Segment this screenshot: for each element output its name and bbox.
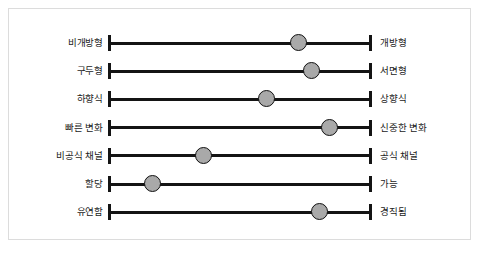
scale-row: 비공식 채널공식 채널 [0, 144, 481, 168]
scale-end-cap-right [369, 120, 372, 136]
scale-row: 하향식상향식 [0, 87, 481, 111]
scale-row: 유연함경직됨 [0, 200, 481, 224]
scale-track-line [108, 70, 372, 73]
scale-end-cap-left [108, 120, 111, 136]
scale-marker[interactable] [144, 175, 161, 192]
scale-left-label: 할당 [8, 172, 103, 196]
scale-end-cap-left [108, 204, 111, 220]
scale-left-label: 유연함 [8, 200, 103, 224]
scale-end-cap-right [369, 91, 372, 107]
scale-end-cap-left [108, 176, 111, 192]
scale-end-cap-left [108, 63, 111, 79]
scale-row: 구두형서면형 [0, 59, 481, 83]
scale-track[interactable] [108, 116, 372, 140]
scale-right-label: 공식 채널 [380, 144, 418, 168]
scale-marker[interactable] [303, 62, 320, 79]
scale-row: 비개방형개방형 [0, 31, 481, 55]
scale-row: 할당가능 [0, 172, 481, 196]
scale-left-label: 빠른 변화 [8, 116, 103, 140]
scale-left-label: 비개방형 [8, 31, 103, 55]
scale-right-label: 개방형 [380, 31, 406, 55]
scale-end-cap-left [108, 35, 111, 51]
scale-right-label: 가능 [380, 172, 398, 196]
scale-marker[interactable] [258, 90, 275, 107]
scale-end-cap-right [369, 63, 372, 79]
scale-track[interactable] [108, 172, 372, 196]
scale-right-label: 경직됨 [380, 200, 406, 224]
scale-track[interactable] [108, 144, 372, 168]
scale-end-cap-right [369, 148, 372, 164]
scale-track[interactable] [108, 200, 372, 224]
semantic-differential-chart: 비개방형개방형구두형서면형하향식상향식빠른 변화신중한 변화비공식 채널공식 채… [0, 0, 481, 258]
scale-marker[interactable] [311, 203, 328, 220]
scale-end-cap-right [369, 204, 372, 220]
scale-left-label: 하향식 [8, 87, 103, 111]
scale-track-line [108, 211, 372, 214]
scale-right-label: 신중한 변화 [380, 116, 427, 140]
scale-rows-container: 비개방형개방형구두형서면형하향식상향식빠른 변화신중한 변화비공식 채널공식 채… [0, 0, 481, 258]
scale-row: 빠른 변화신중한 변화 [0, 116, 481, 140]
scale-right-label: 서면형 [380, 59, 406, 83]
scale-end-cap-left [108, 148, 111, 164]
scale-track-line [108, 154, 372, 157]
scale-left-label: 구두형 [8, 59, 103, 83]
scale-track-line [108, 42, 372, 45]
scale-right-label: 상향식 [380, 87, 406, 111]
scale-track-line [108, 98, 372, 101]
scale-end-cap-right [369, 35, 372, 51]
scale-track[interactable] [108, 31, 372, 55]
scale-marker[interactable] [290, 34, 307, 51]
scale-marker[interactable] [321, 119, 338, 136]
scale-left-label: 비공식 채널 [8, 144, 103, 168]
scale-track[interactable] [108, 59, 372, 83]
scale-track[interactable] [108, 87, 372, 111]
scale-marker[interactable] [195, 147, 212, 164]
scale-end-cap-right [369, 176, 372, 192]
scale-end-cap-left [108, 91, 111, 107]
